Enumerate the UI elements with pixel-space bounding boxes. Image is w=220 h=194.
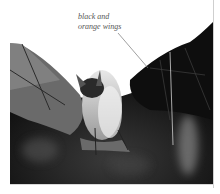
wing-caption: black and orange wings: [78, 12, 121, 32]
caption-line-2: orange wings: [78, 22, 121, 32]
photo-bottom-rule: [10, 184, 214, 185]
page-edge-rule: [213, 0, 214, 188]
book-page: black and orange wings: [0, 0, 220, 194]
caption-line-1: black and: [78, 12, 121, 22]
